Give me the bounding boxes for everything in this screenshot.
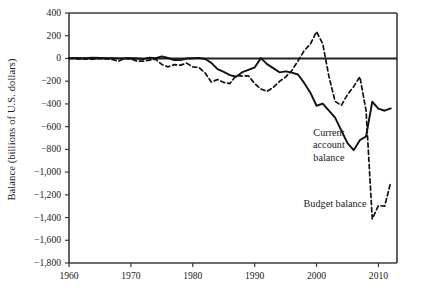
chart-plot-area	[0, 0, 421, 297]
plot-frame	[69, 13, 397, 263]
y-tick-label: −400	[0, 99, 61, 109]
y-tick-label: −1,400	[0, 213, 61, 223]
y-tick-label: −800	[0, 145, 61, 155]
x-tick-label: 2000	[307, 271, 326, 281]
y-tick-label: 400	[0, 8, 61, 18]
x-tick-label: 1960	[59, 271, 78, 281]
x-tick-label: 1970	[121, 271, 140, 281]
x-tick-label: 2010	[369, 271, 388, 281]
y-tick-label: −1,800	[0, 258, 61, 268]
y-tick-label: 200	[0, 31, 61, 41]
x-tick-label: 1980	[183, 271, 202, 281]
annotation-line: Budget balance	[304, 198, 367, 210]
y-tick-label: 0	[0, 54, 61, 64]
series-line-budget-balance	[69, 32, 391, 219]
annotation-line: account	[313, 139, 345, 151]
annotation-line: balance	[313, 152, 345, 164]
y-tick-label: −1,600	[0, 235, 61, 245]
annotation-line: Current	[313, 127, 345, 139]
y-tick-label: −200	[0, 76, 61, 86]
x-tick-label: 1990	[245, 271, 264, 281]
y-tick-label: −1,200	[0, 190, 61, 200]
annotation-current-account-balance: Currentaccountbalance	[313, 127, 345, 164]
data-series-group	[69, 32, 391, 219]
annotation-budget-balance: Budget balance	[304, 198, 367, 210]
y-tick-label: −600	[0, 122, 61, 132]
chart-figure: Balance (billions of U.S. dollars) 40020…	[0, 0, 421, 297]
y-tick-label: −1,000	[0, 167, 61, 177]
